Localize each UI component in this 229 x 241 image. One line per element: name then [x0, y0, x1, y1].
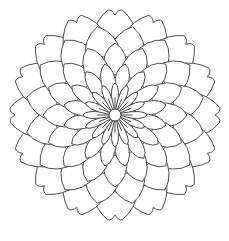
mandala-drawing — [0, 0, 229, 241]
mandala-coloring-page: Black-and-white line-art mandala colorin… — [0, 0, 229, 241]
center-circle — [109, 109, 121, 121]
